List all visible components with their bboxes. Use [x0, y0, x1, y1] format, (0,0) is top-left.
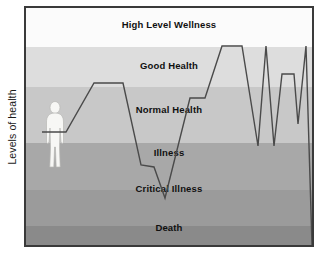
health-level-line	[42, 46, 312, 245]
y-axis-label-text: Levels of health	[6, 89, 18, 164]
y-axis-label: Levels of health	[0, 0, 24, 253]
health-line-layer	[26, 8, 312, 245]
plot-area: High Level WellnessGood HealthNormal Hea…	[24, 6, 314, 247]
health-continuum-chart: Levels of health High Level WellnessGood…	[0, 0, 320, 253]
